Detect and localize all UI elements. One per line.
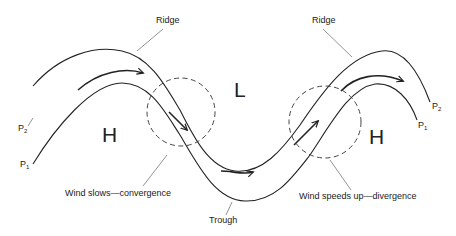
contour-p1-label: P1 xyxy=(20,160,29,170)
contour-p2 xyxy=(33,49,430,171)
leader-trough xyxy=(226,202,232,215)
ridge-right-label: Ridge xyxy=(312,16,336,25)
trough-label: Trough xyxy=(209,216,237,225)
divergence-zone-circle xyxy=(289,86,361,158)
divergence-label: Wind speeds up—divergence xyxy=(299,192,417,201)
contour-p2-label: P2 xyxy=(18,124,27,134)
contour-p2-subscript-right: 2 xyxy=(438,106,441,112)
contour-p2-label-right: P2 xyxy=(432,102,441,112)
high-pressure-right-label: H xyxy=(369,126,384,147)
contour-p1 xyxy=(33,83,417,201)
contour-p1-subscript: 1 xyxy=(26,164,29,170)
leader-divergence xyxy=(330,160,351,190)
leader-p2 xyxy=(28,118,33,126)
leader-convergence xyxy=(143,155,167,186)
convergence-label: Wind slows—convergence xyxy=(65,189,171,198)
contour-p1-label-right: P1 xyxy=(418,121,427,131)
contour-p1-subscript-right: 1 xyxy=(424,125,427,131)
high-pressure-left-label: H xyxy=(102,124,117,145)
flow-arrow-convergence xyxy=(169,112,187,130)
flow-arrow-divergence xyxy=(294,121,318,145)
contour-p2-subscript: 2 xyxy=(24,128,27,134)
flow-arrow-ridge-left xyxy=(78,71,143,90)
low-pressure-label: L xyxy=(234,79,246,100)
leader-ridge-left xyxy=(137,29,163,51)
leader-ridge-right xyxy=(323,29,352,57)
ridge-left-label: Ridge xyxy=(156,16,180,25)
